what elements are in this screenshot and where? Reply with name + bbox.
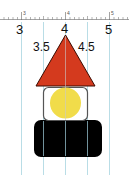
axis-label-5: 5 <box>105 23 112 36</box>
label-4-5: 4.5 <box>78 41 95 53</box>
ruler <box>0 12 129 20</box>
black-box <box>34 120 102 157</box>
ruler-tiny-label-5: 5 <box>111 11 114 16</box>
axis-label-4: 4 <box>61 22 68 35</box>
axis-label-3: 3 <box>16 23 23 36</box>
diagram-canvas: 3 4 5 3 4 5 3.5 4.5 <box>0 0 129 175</box>
ruler-tiny-label-4: 4 <box>67 11 70 16</box>
ruler-tiny-label-3: 3 <box>23 11 26 16</box>
label-3-5: 3.5 <box>33 41 50 53</box>
